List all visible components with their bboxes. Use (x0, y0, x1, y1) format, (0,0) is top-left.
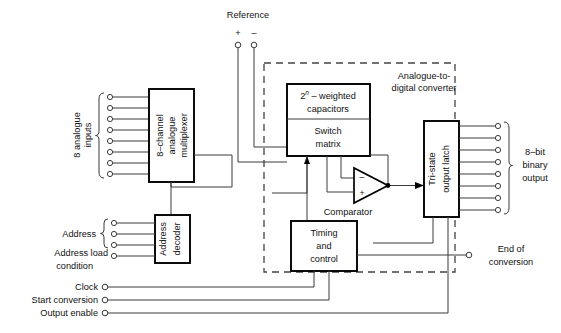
comparator-minus-input-label: – (360, 172, 365, 182)
weighted-capacitors-suffix: – weighted (309, 91, 356, 101)
address-label: Address (62, 229, 96, 239)
address-brace (101, 219, 109, 248)
output-latch-label-line1: Tri-state (427, 152, 437, 185)
multiplexer-block[interactable]: 8–channel analogue multiplexer (149, 89, 194, 182)
address-input-line[interactable] (111, 220, 155, 225)
binary-output-label-line1: 8–bit (525, 147, 545, 157)
binary-output-line[interactable] (459, 147, 501, 152)
analogue-input-line[interactable] (107, 127, 149, 132)
switch-matrix-label-line1: Switch (314, 126, 341, 136)
adc-block-diagram-page: Analogue-to- digital converter (0, 0, 561, 333)
end-of-conversion-terminal[interactable] (466, 252, 472, 258)
multiplexer-label-line2: analogue (167, 117, 177, 155)
address-input-line[interactable] (111, 242, 155, 247)
address-input-lines-group (111, 220, 155, 258)
analogue-inputs-label-line2: inputs (83, 122, 93, 147)
analogue-input-line[interactable] (107, 105, 149, 110)
latch-input-arrowhead (415, 182, 424, 189)
analogue-input-line[interactable] (107, 160, 149, 165)
output-enable-wire (108, 305, 448, 313)
end-of-conversion-label-line1: End of (498, 244, 525, 254)
binary-output-line[interactable] (459, 135, 501, 140)
switch-matrix-input-arrowhead (304, 156, 310, 164)
block-diagram-canvas: Analogue-to- digital converter (0, 0, 561, 333)
switch-matrix-to-comparator-minus-wire (341, 156, 354, 178)
multiplexer-label-line3: multiplexer (179, 113, 189, 157)
reference-plus-label: + (235, 28, 240, 38)
clock-wire (108, 271, 314, 287)
analogue-input-line[interactable] (107, 116, 149, 121)
timing-to-latch-wire (373, 217, 433, 243)
reference-minus-terminal[interactable] (251, 42, 257, 48)
comparator-plus-input-label: + (359, 188, 364, 198)
address-decoder-block[interactable]: Address decoder (155, 215, 190, 263)
binary-output-line[interactable] (459, 123, 501, 128)
multiplexer-label-line1: 8–channel (155, 114, 165, 156)
address-decoder-label-line2: decoder (172, 222, 182, 255)
binary-output-line[interactable] (459, 207, 501, 212)
adc-enclosure-label-line1: Analogue-to- (398, 71, 451, 81)
binary-output-lines-group (459, 123, 501, 212)
start-conversion-label: Start conversion (32, 295, 98, 305)
address-load-label-line1: Address load (54, 248, 108, 258)
timing-control-block[interactable]: Timing and control (291, 221, 357, 271)
weighted-capacitors-label-line2: capacitors (307, 104, 349, 114)
binary-output-line[interactable] (459, 195, 501, 200)
output-enable-terminal[interactable] (102, 310, 108, 316)
weighted-capacitors-switch-matrix-block[interactable]: 2n – weighted capacitors Switch matrix (287, 84, 370, 156)
analogue-input-line[interactable] (107, 149, 149, 154)
analogue-inputs-label-line1: 8 analogue (72, 112, 82, 157)
binary-output-line[interactable] (459, 171, 501, 176)
adc-enclosure-label-line2: digital converter (392, 83, 457, 93)
analogue-input-lines-group (107, 94, 149, 176)
address-load-label-line2: condition (56, 261, 93, 271)
binary-output-line[interactable] (459, 183, 501, 188)
analogue-inputs-brace (96, 93, 105, 178)
end-of-conversion-label-line2: conversion (489, 257, 533, 267)
address-load-condition-line[interactable] (111, 253, 155, 258)
address-input-line[interactable] (111, 231, 155, 236)
binary-output-line[interactable] (459, 159, 501, 164)
comparator-block[interactable]: – + (354, 168, 388, 203)
reference-minus-label: – (251, 28, 257, 38)
analogue-input-line[interactable] (107, 171, 149, 176)
binary-output-label-line2: binary (522, 160, 547, 170)
reference-plus-wire (238, 48, 287, 162)
binary-output-brace (504, 122, 513, 214)
timing-control-label-line3: control (310, 254, 338, 264)
output-latch-label-line2: output latch (441, 145, 451, 193)
reference-label: Reference (227, 10, 269, 20)
address-decoder-label-line1: Address (158, 222, 168, 256)
start-conversion-terminal[interactable] (102, 297, 108, 303)
analogue-input-line[interactable] (107, 94, 149, 99)
output-latch-block[interactable]: Tri-state output latch (424, 121, 459, 217)
comparator-output-junction-dot (386, 183, 391, 188)
reference-plus-terminal[interactable] (235, 42, 241, 48)
analogue-input-line[interactable] (107, 138, 149, 143)
weighted-capacitors-label-line1: 2n – weighted (300, 89, 356, 101)
output-enable-label: Output enable (40, 308, 98, 318)
timing-control-label-line2: and (316, 241, 331, 251)
clock-label: Clock (75, 282, 98, 292)
timing-control-label-line1: Timing (310, 228, 337, 238)
binary-output-label-line3: output (522, 173, 548, 183)
start-conversion-wire (108, 271, 329, 300)
clock-terminal[interactable] (102, 284, 108, 290)
comparator-label: Comparator (324, 207, 373, 217)
switch-matrix-label-line2: matrix (315, 139, 340, 149)
